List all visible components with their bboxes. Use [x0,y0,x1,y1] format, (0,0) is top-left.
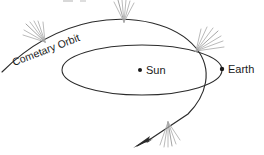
cometary-orbit-label: Cometary Orbit [10,31,81,68]
arrow-shaft [137,139,150,146]
cometary-orbit-diagram: Sun Earth Cometary Orbit [0,0,264,155]
earth-marker [220,67,224,71]
earth-label: Earth [228,63,254,75]
comet-direction-arrow [133,136,153,148]
comet-tail-right [196,27,224,51]
sun-label: Sun [146,64,166,76]
sun-marker [138,68,142,72]
cut-off-caption-remnant [63,0,86,2]
comet-tail-upper-left [23,21,45,42]
